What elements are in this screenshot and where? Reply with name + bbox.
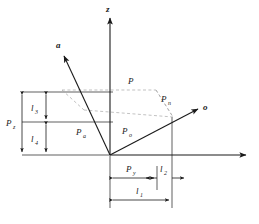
vector-label-Po: P o xyxy=(121,126,132,138)
dashed-line-diagonal xyxy=(84,110,173,117)
vector-decomposition-figure: z a o P P a P o P n P z l 3 xyxy=(0,0,259,224)
dimension-label-Pz-sub: z xyxy=(12,124,16,130)
dimension-label-l2-sub: 2 xyxy=(164,170,167,176)
dimension-label-Py-sub: y xyxy=(132,170,136,176)
vector-label-Pa-base: P xyxy=(75,127,82,137)
dimension-label-l3-base: l xyxy=(31,103,34,113)
dimension-l4: l 4 xyxy=(31,125,46,152)
axis-label-z: z xyxy=(105,4,110,14)
axis-label-a: a xyxy=(56,40,61,50)
figure-canvas: z a o P P a P o P n P z l 3 xyxy=(0,0,259,224)
dimension-l1: l 1 xyxy=(113,186,169,200)
axis-a xyxy=(64,56,110,155)
dimension-label-l4-base: l xyxy=(31,134,34,144)
dimension-label-l1-sub: 1 xyxy=(140,192,143,198)
extension-lines xyxy=(22,92,172,208)
axes-group xyxy=(64,18,246,155)
vector-label-Pn-sub: n xyxy=(168,100,171,106)
vector-label-Po-base: P xyxy=(121,126,128,136)
dimension-l3: l 3 xyxy=(31,95,46,119)
point-label-P: P xyxy=(127,76,134,86)
dimension-label-Py-base: P xyxy=(125,164,132,174)
dimension-label-l2-base: l xyxy=(160,164,163,174)
dimension-label-l4-sub: 4 xyxy=(35,140,38,146)
dimension-Pz: P z xyxy=(5,95,22,152)
vector-label-Pn-base: P xyxy=(160,94,167,104)
vector-label-Pa-sub: a xyxy=(83,133,86,139)
dimension-l2: l 2 xyxy=(146,164,184,178)
vector-label-Pn: P n xyxy=(160,94,171,106)
axis-label-o: o xyxy=(203,102,208,112)
vector-label-Pa: P a xyxy=(75,127,86,139)
dashed-construction xyxy=(62,90,173,117)
vector-label-Po-sub: o xyxy=(129,132,132,138)
dimension-label-l3-sub: 3 xyxy=(34,109,38,115)
dimension-Py: P y xyxy=(113,164,154,178)
dimension-label-Pz-base: P xyxy=(5,118,12,128)
dimension-label-l1-base: l xyxy=(136,186,139,196)
